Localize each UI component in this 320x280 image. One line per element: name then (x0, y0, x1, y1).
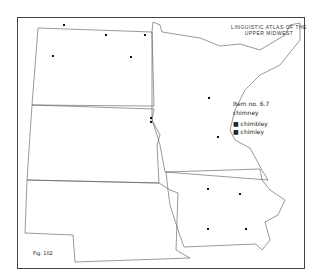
minnesota-wisconsin (152, 22, 300, 180)
data-point (130, 56, 132, 58)
data-point (207, 188, 209, 190)
data-point (144, 34, 146, 36)
legend-word: chimney (233, 109, 269, 116)
data-point (217, 136, 219, 138)
iowa (166, 169, 285, 250)
data-point (63, 24, 65, 26)
north-dakota (32, 28, 154, 106)
atlas-title-line2: UPPER MIDWEST (225, 30, 313, 36)
data-point (52, 55, 54, 57)
data-point (208, 97, 210, 99)
map (0, 0, 320, 280)
south-dakota (27, 105, 160, 183)
data-point (239, 193, 241, 195)
legend-item: Item no. 6.7 (233, 100, 269, 107)
data-point (150, 121, 152, 123)
legend-entry: chimley (241, 128, 265, 135)
dot-icon: ■ (233, 120, 241, 127)
data-point (105, 34, 107, 36)
figure-label: Fig. 102 (33, 250, 53, 256)
data-point (150, 117, 152, 119)
data-point (245, 228, 247, 230)
map-frame (18, 18, 305, 269)
legend-entry: chimbley (241, 120, 268, 127)
data-point (207, 228, 209, 230)
dot-icon: ■ (233, 128, 241, 135)
legend: Item no. 6.7 chimney ■ chimbley ■ chimle… (233, 100, 269, 135)
